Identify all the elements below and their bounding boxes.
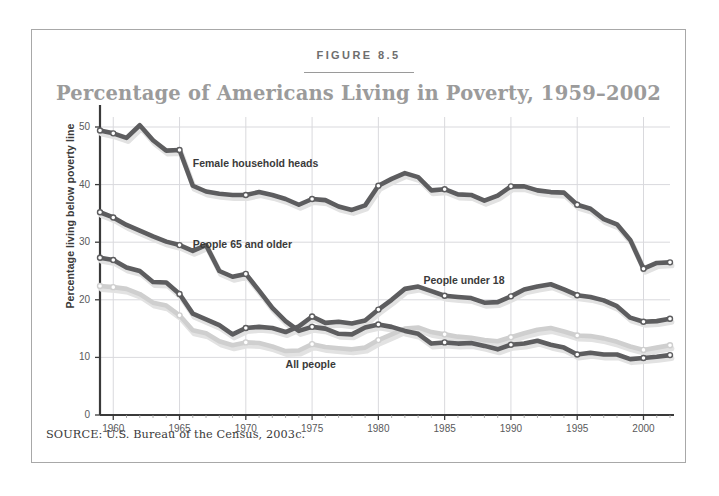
series-marker [575,202,580,207]
series-marker [508,294,513,299]
x-axis-tick-label: 1990 [491,423,531,434]
series-marker [111,215,116,220]
series-marker [641,266,646,271]
series-marker [508,184,513,189]
series-marker [575,293,580,298]
series-marker [177,313,182,318]
series-marker [376,183,381,188]
series-marker [243,271,248,276]
series-marker [98,255,103,260]
series-marker [641,347,646,352]
line-chart-svg [32,30,687,464]
series-marker [98,283,103,288]
series-marker [442,293,447,298]
series-marker [98,128,103,133]
series-annotation-label: Female household heads [193,157,318,169]
series-annotation-label: People under 18 [423,274,504,286]
series-marker [442,187,447,192]
chart-plot-area: Percentage living below poverty line 010… [32,30,687,464]
series-marker [177,243,182,248]
series-marker [111,258,116,263]
y-axis-tick-label: 30 [64,236,90,247]
series-marker [376,307,381,312]
series-marker [310,197,315,202]
series-marker [668,343,673,348]
y-axis-tick-label: 40 [64,179,90,190]
y-axis-tick-label: 50 [64,121,90,132]
x-axis-tick-label: 2000 [623,423,663,434]
series-marker [98,210,103,215]
series-marker [310,342,315,347]
series-marker [442,340,447,345]
source-note: SOURCE: U.S. Bureau of the Census, 2003c… [46,428,305,441]
x-axis-tick-label: 1980 [358,423,398,434]
x-axis-tick-label: 1995 [557,423,597,434]
series-marker [243,340,248,345]
series-marker [376,322,381,327]
y-axis-tick-label: 20 [64,294,90,305]
y-axis-tick-label: 0 [64,409,90,420]
series-marker [243,192,248,197]
series-marker [641,319,646,324]
series-marker [111,285,116,290]
series-marker [668,316,673,321]
series-marker [376,338,381,343]
series-marker [310,314,315,319]
series-marker [668,260,673,265]
series-marker [575,352,580,357]
series-marker [575,333,580,338]
figure-frame: FIGURE 8.5 Percentage of Americans Livin… [31,29,686,463]
series-marker [668,353,673,358]
series-marker [111,131,116,136]
series-marker [243,326,248,331]
series-annotation-label: People 65 and older [193,238,292,250]
x-axis-tick-label: 1985 [425,423,465,434]
y-axis-title: Percentage living below poverty line [64,116,76,316]
y-axis-tick-label: 10 [64,351,90,362]
series-marker [177,292,182,297]
series-marker [508,342,513,347]
series-marker [442,332,447,337]
series-marker [310,324,315,329]
series-marker [177,148,182,153]
series-marker [508,335,513,340]
series-marker [641,355,646,360]
series-annotation-label: All people [286,358,336,370]
